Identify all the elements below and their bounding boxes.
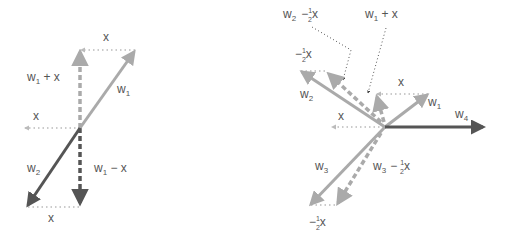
label-w2: w2 [299, 87, 314, 103]
w1-arrow [385, 95, 427, 127]
vector-diagram: x w1 + x w1 x w2 w1 − x x w2−12x w1 + x … [0, 0, 508, 242]
label-w1: w1 [116, 82, 131, 98]
label-w1-plus-x: w1 + x [26, 70, 60, 86]
label-x-mid: x [338, 109, 344, 123]
label-w3-minus-half-x: w3−12x [372, 159, 410, 175]
label-neg-half-x-top: −12x [295, 47, 312, 63]
label-x-top: x [103, 30, 109, 44]
label-x-bottom: x [48, 211, 54, 225]
pointer-w1-plus-x [368, 28, 386, 93]
pointer-w2-minus-half-x [312, 27, 351, 80]
label-w2-minus-half-x: w2−12x [282, 7, 318, 23]
label-w1-plus-x-top: w1 + x [364, 7, 398, 23]
w2-arrow [28, 128, 80, 205]
label-w3: w3 [314, 159, 329, 175]
label-w1-minus-x: w1 − x [93, 161, 127, 177]
label-w4: w4 [454, 107, 469, 123]
left-diagram: x w1 + x w1 x w2 w1 − x x [25, 30, 135, 225]
label-x-mid: x [33, 109, 39, 123]
label-w1: w1 [427, 95, 442, 111]
right-diagram: w2−12x w1 + x −12x x w2 w1 w4 x w3 w3−12… [282, 7, 483, 231]
label-w2: w2 [26, 161, 41, 177]
label-neg-half-x-bottom: −12x [309, 215, 326, 231]
label-x-w1: x [398, 75, 404, 89]
w2-minus-half-x-arrow [329, 74, 381, 122]
